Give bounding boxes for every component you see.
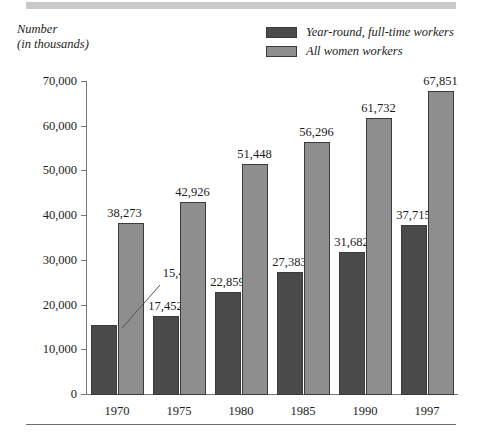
bar: [242, 164, 268, 395]
y-tick-mark: [81, 394, 86, 395]
bar: [215, 292, 241, 395]
bar: [366, 118, 392, 395]
x-category-label: 1997: [396, 404, 458, 419]
bar-value-label: 38,273: [101, 206, 149, 221]
bar-value-label: 42,926: [169, 185, 217, 200]
bar-value-label: 51,448: [231, 147, 279, 162]
y-tick-mark: [81, 305, 86, 306]
x-category-label: 1990: [334, 404, 396, 419]
y-tick-label: 20,000: [10, 297, 77, 312]
bar: [180, 202, 206, 395]
y-tick-label: 50,000: [10, 163, 77, 178]
y-tick-mark: [81, 215, 86, 216]
bar: [91, 325, 117, 395]
bar-value-label: 56,296: [293, 125, 341, 140]
bar: [277, 272, 303, 395]
x-category-label: 1980: [210, 404, 272, 419]
bar: [428, 91, 454, 395]
bar: [401, 225, 427, 395]
bar: [118, 223, 144, 395]
y-tick-mark: [81, 260, 86, 261]
y-tick-mark: [81, 349, 86, 350]
y-tick-mark: [81, 170, 86, 171]
bar-value-label: 67,851: [417, 74, 465, 89]
bar: [153, 316, 179, 395]
bar: [304, 142, 330, 395]
y-tick-label: 0: [10, 387, 77, 402]
y-axis-line: [86, 81, 87, 395]
y-tick-label: 10,000: [10, 342, 77, 357]
y-tick-label: 70,000: [10, 74, 77, 89]
bar-value-label: 61,732: [355, 101, 403, 116]
y-tick-label: 30,000: [10, 252, 77, 267]
x-category-label: 1970: [86, 404, 148, 419]
footer-rule: [26, 424, 456, 425]
bar: [339, 252, 365, 395]
y-tick-mark: [81, 126, 86, 127]
y-tick-mark: [81, 81, 86, 82]
y-tick-label: 40,000: [10, 208, 77, 223]
x-category-label: 1985: [272, 404, 334, 419]
bar-chart-plot-area: 010,00020,00030,00040,00050,00060,00070,…: [0, 0, 480, 445]
y-tick-label: 60,000: [10, 118, 77, 133]
x-category-label: 1975: [148, 404, 210, 419]
